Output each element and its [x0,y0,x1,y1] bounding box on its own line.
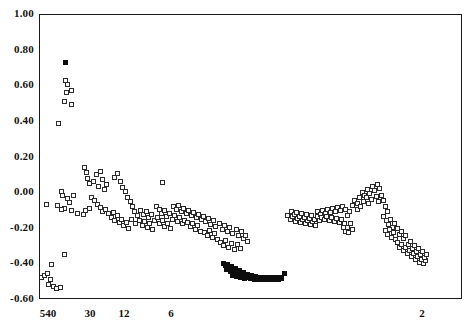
y-tick-label: -0.20 [10,222,34,233]
data-point [149,212,154,217]
y-tick-label: 0.00 [14,186,34,197]
data-point [168,226,173,231]
data-point [212,231,217,236]
data-point [238,246,243,251]
data-point [424,252,429,257]
x-tick-label: 12 [104,308,144,319]
data-point [84,170,89,175]
x-tick-label: 540 [28,308,68,319]
data-point [45,271,50,276]
data-point [69,88,74,93]
x-axis-labels: 540301262 [0,308,472,328]
data-point [115,171,120,176]
data-point [350,227,355,232]
data-point [81,212,86,217]
data-point [71,193,76,198]
data-point [195,223,200,228]
y-tick-label: 1.00 [14,8,34,19]
data-point [44,202,49,207]
figure: 1.000.800.600.400.200.00-0.20-0.40-0.60 … [0,0,472,334]
data-point [377,186,382,191]
data-point [245,239,250,244]
data-point [276,277,281,282]
data-point [126,226,131,231]
plot-area [40,15,461,298]
data-point [160,180,165,185]
data-point [232,247,237,252]
data-point [63,60,68,65]
plot-frame [39,14,462,299]
y-tick-label: 0.40 [14,115,34,126]
data-point [227,225,232,230]
data-point [69,102,74,107]
y-axis-labels: 1.000.800.600.400.200.00-0.20-0.40-0.60 [0,0,34,334]
data-point [123,189,128,194]
data-point [381,198,386,203]
x-tick-label: 2 [402,308,442,319]
y-tick-label: 0.80 [14,44,34,55]
data-point [58,285,63,290]
data-point [282,271,287,276]
data-point [49,262,54,267]
y-tick-label: -0.60 [10,293,34,304]
data-point [313,223,318,228]
data-point [102,187,107,192]
data-point [229,241,234,246]
data-point [223,238,228,243]
data-point [59,207,64,212]
data-point [347,209,352,214]
data-point [242,276,247,281]
x-tick-label: 6 [151,308,191,319]
y-tick-label: -0.40 [10,257,34,268]
data-point [56,121,61,126]
data-point [96,184,101,189]
data-point [75,211,80,216]
data-point [403,233,408,238]
data-point [104,182,109,187]
data-point [62,252,67,257]
data-point [118,179,123,184]
data-point [243,233,248,238]
y-tick-label: 0.60 [14,79,34,90]
data-point [67,200,72,205]
data-point [69,208,74,213]
data-point [358,204,363,209]
data-point [150,227,155,232]
data-point [98,169,103,174]
data-point [65,82,70,87]
data-point [62,99,67,104]
data-point [211,218,216,223]
y-tick-label: 0.20 [14,151,34,162]
